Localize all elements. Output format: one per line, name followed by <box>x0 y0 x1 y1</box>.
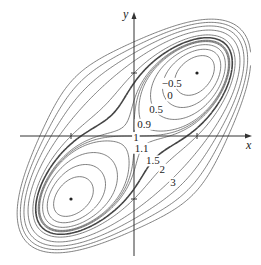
y-axis-arrow-icon <box>132 12 137 19</box>
contour-label: 1.5 <box>146 154 160 166</box>
contour-label: 3 <box>170 176 176 188</box>
x-axis-label: x <box>245 138 252 152</box>
contour-label: 0 <box>167 89 173 101</box>
contour-label: 0.9 <box>137 118 151 130</box>
contour-label: 2 <box>160 163 166 175</box>
contour-label: 1.1 <box>135 142 149 154</box>
minimum-point <box>69 197 72 200</box>
minimum-point <box>195 71 198 74</box>
contour-plot: x y −0.500.50.911.11.523 <box>0 0 261 265</box>
contour-label: −0.5 <box>162 77 182 89</box>
y-axis-label: y <box>122 7 129 21</box>
contour-label: 0.5 <box>149 103 163 115</box>
